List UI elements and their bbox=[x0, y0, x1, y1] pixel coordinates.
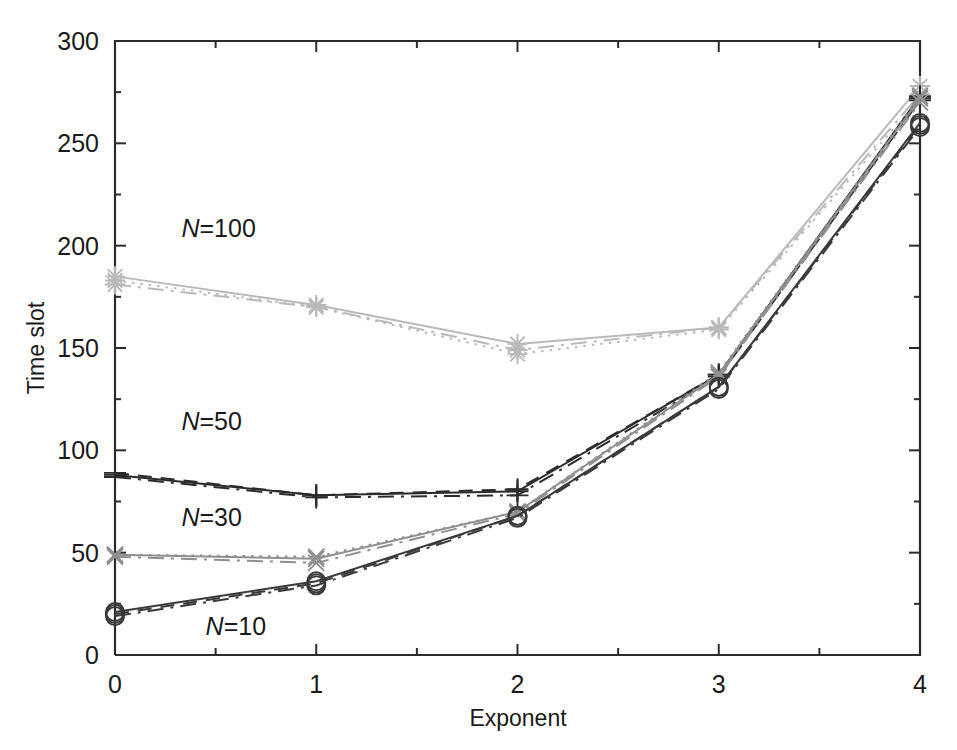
figure-container: 050100150200250300 01234 N=100N=50N=30N=… bbox=[0, 0, 957, 750]
x-axis-title: Exponent bbox=[469, 705, 567, 731]
y-axis-title: Time slot bbox=[23, 301, 49, 394]
x-tick-label: 2 bbox=[511, 670, 525, 698]
plot-background bbox=[0, 0, 957, 750]
y-tick-label: 50 bbox=[71, 539, 99, 567]
y-tick-label: 150 bbox=[57, 334, 99, 362]
series-annotation-label: N=50 bbox=[181, 407, 241, 435]
y-tick-label: 250 bbox=[57, 129, 99, 157]
y-tick-label: 0 bbox=[85, 641, 99, 669]
x-tick-label: 0 bbox=[108, 670, 122, 698]
line-chart: 050100150200250300 01234 N=100N=50N=30N=… bbox=[0, 0, 957, 750]
marker-star bbox=[105, 270, 125, 290]
y-tick-label: 300 bbox=[57, 27, 99, 55]
y-tick-label: 100 bbox=[57, 436, 99, 464]
series-annotation-label: N=10 bbox=[206, 612, 266, 640]
marker-star bbox=[306, 297, 326, 317]
x-tick-label: 4 bbox=[913, 670, 927, 698]
marker-star bbox=[709, 320, 729, 340]
marker-star bbox=[508, 344, 528, 364]
x-tick-label: 1 bbox=[309, 670, 323, 698]
x-tick-label: 3 bbox=[712, 670, 726, 698]
y-tick-label: 200 bbox=[57, 232, 99, 260]
series-annotation-label: N=100 bbox=[181, 214, 255, 242]
series-annotation-label: N=30 bbox=[181, 503, 241, 531]
